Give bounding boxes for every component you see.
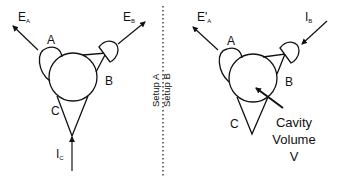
svg-text:E'A: E'A: [197, 10, 211, 24]
port-c-label: C: [51, 104, 60, 118]
diagram-canvas: EA EB A B C IC Setup A Setup B E'A IB A …: [0, 0, 350, 182]
svg-text:IB: IB: [305, 10, 312, 24]
svg-text:IC: IC: [56, 147, 64, 161]
port-b-label: B: [105, 74, 113, 88]
setup-a-title: Setup A: [150, 73, 161, 107]
cavity-label-line2: Volume: [272, 132, 315, 147]
svg-text:EB: EB: [123, 10, 135, 24]
input-b-arrow: [302, 21, 327, 44]
emission-a-arrow: [13, 26, 38, 50]
setup-a-diagram: EA EB A B C IC: [13, 10, 145, 171]
port-a-dome-b: [219, 48, 242, 82]
emission-a-prime-label: E': [197, 10, 207, 24]
port-a-dome: [39, 47, 62, 81]
cavity-pointer-arrow: [256, 88, 283, 108]
setup-b-diagram: E'A IB A B C Cavity Volume V: [193, 10, 327, 164]
emission-b-label: E: [123, 10, 131, 24]
port-b-label-b: B: [285, 75, 293, 89]
port-b-triangle: [83, 53, 106, 72]
emission-a-label: E: [18, 10, 26, 24]
cavity-sphere-b: [229, 54, 277, 102]
port-a-label: A: [47, 33, 55, 47]
cavity-sphere-a: [49, 53, 97, 101]
setup-b-title: Setup B: [161, 73, 172, 107]
cavity-label-line1: Cavity: [276, 115, 313, 130]
port-b-triangle-b: [263, 54, 285, 74]
emission-b-arrow: [118, 22, 145, 44]
emission-a-prime-arrow: [193, 27, 218, 50]
port-b-detector: [99, 41, 118, 62]
port-a-label-b: A: [227, 34, 235, 48]
port-c-cone: [57, 96, 88, 136]
port-c-label-b: C: [230, 117, 239, 131]
svg-text:EA: EA: [18, 10, 30, 24]
cavity-label-line3: V: [290, 149, 299, 164]
